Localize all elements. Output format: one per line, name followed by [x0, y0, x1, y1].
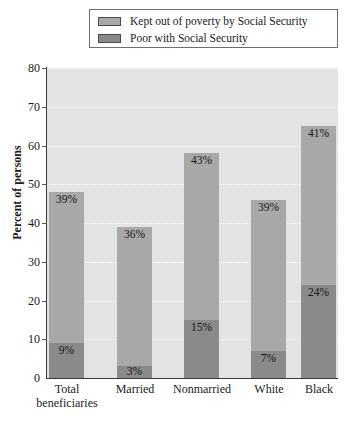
bar-white[interactable]: 39% 7% [251, 200, 286, 378]
bar-segment-kept-out-of-poverty[interactable]: 39% [49, 192, 84, 343]
x-label-line1: Black [277, 382, 346, 396]
y-tick-label-20: 20 [14, 295, 40, 307]
bar-value-label-kept-out-of-poverty: 36% [117, 228, 152, 240]
bar-segment-poor-with-social-security[interactable]: 7% [251, 351, 286, 378]
bar-segment-poor-with-social-security[interactable]: 9% [49, 343, 84, 378]
plot-area: 39% 9% 36% 3% 43% 15% 39% 7% 41% [47, 68, 338, 378]
bar-segment-poor-with-social-security[interactable]: 3% [117, 366, 152, 378]
y-tick-label-70: 70 [14, 101, 40, 113]
bar-value-label-kept-out-of-poverty: 39% [251, 201, 286, 213]
y-tick-label-60: 60 [14, 140, 40, 152]
x-axis-line [46, 378, 338, 379]
legend-label-kept-out-of-poverty: Kept out of poverty by Social Security [130, 15, 308, 27]
bar-segment-poor-with-social-security[interactable]: 15% [184, 320, 219, 378]
bar-segment-kept-out-of-poverty[interactable]: 36% [117, 227, 152, 367]
bar-value-label-kept-out-of-poverty: 39% [49, 193, 84, 205]
y-tick-label-30: 30 [14, 256, 40, 268]
gridline-80 [47, 68, 338, 69]
bar-value-label-kept-out-of-poverty: 41% [301, 127, 336, 139]
x-label-black: Black [277, 382, 346, 396]
bar-black[interactable]: 41% 24% [301, 126, 336, 378]
bar-value-label-poor-with-social-security: 9% [49, 344, 84, 356]
legend-entry-kept-out-of-poverty: Kept out of poverty by Social Security [98, 13, 337, 29]
chart-legend: Kept out of poverty by Social Security P… [89, 9, 338, 48]
gridline-70 [47, 107, 338, 108]
legend-label-poor-with-social-security: Poor with Social Security [130, 32, 248, 44]
bar-segment-poor-with-social-security[interactable]: 24% [301, 285, 336, 378]
bar-value-label-poor-with-social-security: 24% [301, 286, 336, 298]
y-axis-tick-labels: 80 70 60 50 40 30 20 10 0 [8, 68, 40, 378]
bar-value-label-poor-with-social-security: 7% [251, 352, 286, 364]
bar-total-beneficiaries[interactable]: 39% 9% [49, 192, 84, 378]
y-tick-label-50: 50 [14, 178, 40, 190]
legend-swatch-kept-out-of-poverty [98, 17, 121, 26]
y-tick-label-40: 40 [14, 217, 40, 229]
bar-segment-kept-out-of-poverty[interactable]: 39% [251, 200, 286, 351]
y-axis-line [46, 67, 47, 379]
legend-entry-poor-with-social-security: Poor with Social Security [98, 30, 337, 46]
bar-value-label-kept-out-of-poverty: 43% [184, 154, 219, 166]
y-tick-label-10: 10 [14, 333, 40, 345]
bar-value-label-poor-with-social-security: 3% [117, 365, 152, 377]
x-axis-category-labels: Total beneficiaries Married Nonmarried W… [47, 382, 338, 428]
bar-segment-kept-out-of-poverty[interactable]: 43% [184, 153, 219, 320]
bar-value-label-poor-with-social-security: 15% [184, 321, 219, 333]
bar-segment-kept-out-of-poverty[interactable]: 41% [301, 126, 336, 285]
bar-nonmarried[interactable]: 43% 15% [184, 153, 219, 378]
bar-married[interactable]: 36% 3% [117, 227, 152, 378]
legend-swatch-poor-with-social-security [98, 34, 121, 43]
x-label-line2: beneficiaries [25, 396, 109, 410]
y-tick-label-80: 80 [14, 62, 40, 74]
gridline-60 [47, 146, 338, 147]
